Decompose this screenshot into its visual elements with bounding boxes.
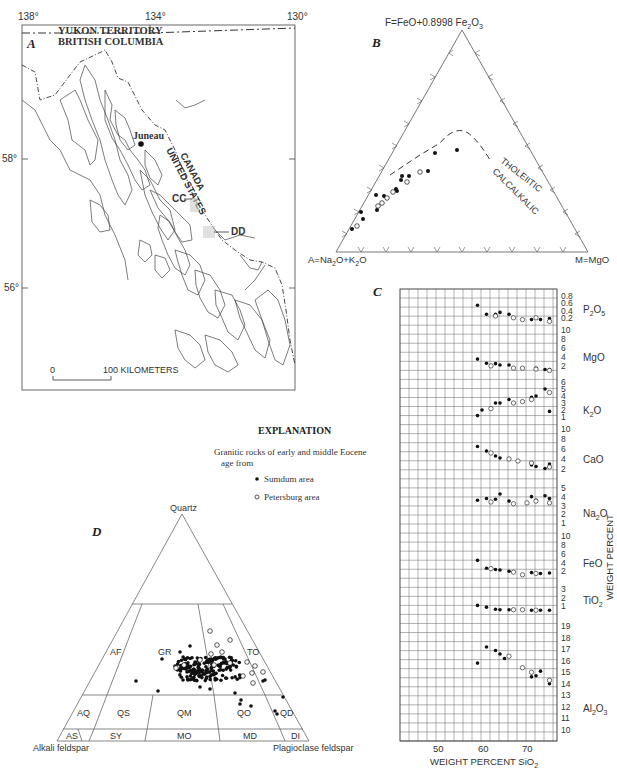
field-qd: QD [280,708,294,718]
lon-label-134: 134° [145,11,166,22]
svg-text:16: 16 [561,656,571,666]
juneau-label: Juneau [133,130,165,141]
svg-text:11: 11 [561,713,570,723]
svg-text:12: 12 [561,702,571,712]
panel-a-letter: A [26,36,36,51]
oxide-label-al2o3: Al2O3 [583,703,608,716]
explanation-legend: EXPLANATION Granitic rocks of early and … [214,425,366,502]
oxide-label-tio2: TiO2 [583,595,603,608]
lat-label-56: 56° [4,282,19,293]
figure-canvas: 138° 134° 130° 58° 56° YUKON TERRITORY B… [0,0,617,771]
field-gr: GR [158,647,172,657]
panel-b-afm-ternary: F=FeO+0.8998 Fe2O3 B THOLEIITIC CALCALKA… [308,17,609,267]
svg-text:4: 4 [561,558,566,568]
panel-d-letter: D [91,524,102,539]
svg-text:2: 2 [561,566,566,576]
svg-text:10: 10 [561,531,571,541]
panel-a-map: 138° 134° 130° 58° 56° YUKON TERRITORY B… [2,11,308,390]
field-qm: QM [177,708,192,718]
svg-text:4: 4 [561,492,566,502]
svg-text:3: 3 [561,501,566,511]
lat-label-58: 58° [2,153,17,164]
oxide-label-mgo: MgO [583,352,605,363]
field-qs: QS [117,708,130,718]
svg-text:2: 2 [561,464,566,474]
field-to: TO [247,647,259,657]
lon-label-138: 138° [18,11,39,22]
oxide-label-feo: FeO [583,558,603,569]
svg-text:6: 6 [561,444,566,454]
legend-petersburg-label: Petersburg area [264,492,320,502]
d-apex-top-label: Quartz [170,503,198,513]
svg-text:2: 2 [561,509,566,519]
lon-label-130: 130° [287,11,308,22]
b-apex-top-label: F=FeO+0.8998 Fe2O3 [385,17,483,30]
panel-b-letter: B [371,35,381,50]
oxide-label-k2o: K2O [583,405,602,418]
x-tick-50: 50 [433,743,444,754]
oxide-label-cao: CaO [583,454,604,465]
b-apex-left-label: A=Na2O+K2O [308,254,367,267]
svg-text:4: 4 [561,352,566,362]
open-circle-icon [255,495,259,499]
field-aq: AQ [77,708,90,718]
svg-text:0.8: 0.8 [561,291,573,301]
svg-text:8: 8 [561,334,566,344]
oxide-label-p2o5: P2O5 [583,304,605,317]
field-qo: QO [237,708,251,718]
svg-text:10: 10 [561,424,571,434]
svg-text:14: 14 [561,679,571,689]
explanation-text-2: age from [221,458,253,468]
svg-text:4: 4 [561,454,566,464]
scale-zero: 0 [50,365,55,375]
legend-sumdum-label: Sumdum area [264,474,314,484]
field-mo: MO [177,731,192,741]
explanation-text-1: Granitic rocks of early and middle Eocen… [214,447,366,457]
c-ylabel: WEIGHT PERCENT [604,514,615,600]
svg-text:1: 1 [561,518,566,528]
yukon-territory-label: YUKON TERRITORY [58,25,163,36]
panel-c-harker: C 0.20.40.60.8P2O5246810MgO123456K2O2468… [373,284,615,769]
field-sy: SY [110,731,122,741]
svg-text:8: 8 [561,434,566,444]
d-apex-left-label: Alkali feldspar [33,743,89,753]
field-af: AF [110,647,122,657]
cc-label: CC [172,193,186,204]
field-md: MD [243,731,257,741]
svg-text:15: 15 [561,667,571,677]
scale-label: 100 KILOMETERS [103,365,179,375]
svg-text:5: 5 [561,483,566,493]
c-xlabel: WEIGHT PERCENT SiO2 [430,756,538,769]
x-tick-70: 70 [522,743,533,754]
svg-text:6: 6 [561,343,566,353]
field-as: AS [66,731,78,741]
svg-text:6: 6 [561,549,566,559]
x-tick-60: 60 [478,743,489,754]
svg-text:10: 10 [561,725,571,735]
dd-label: DD [231,226,245,237]
svg-text:6: 6 [561,377,566,387]
field-di: DI [291,731,300,741]
filled-circle-icon [255,477,259,481]
explanation-title: EXPLANATION [258,425,332,436]
svg-text:10: 10 [561,325,571,335]
d-apex-right-label: Plagioclase feldspar [273,743,354,753]
svg-text:13: 13 [561,690,571,700]
svg-text:2: 2 [561,593,566,603]
svg-text:3: 3 [561,584,566,594]
b-sumdum-points [350,148,459,231]
svg-text:1: 1 [561,601,566,611]
svg-text:17: 17 [561,644,571,654]
svg-text:2: 2 [561,361,566,371]
panel-d-qap-ternary: Quartz D AF GR TO AQ QS QM QO QD AS SY M… [33,503,354,753]
svg-text:8: 8 [561,540,566,550]
panel-c-letter: C [373,284,382,299]
svg-text:18: 18 [561,633,571,643]
b-apex-right-label: M=MgO [575,254,609,265]
british-columbia-label: BRITISH COLUMBIA [58,36,164,47]
svg-text:19: 19 [561,621,571,631]
